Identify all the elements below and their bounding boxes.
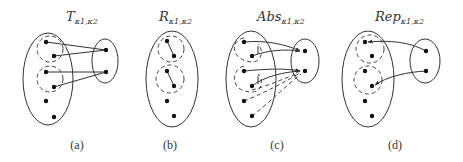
- source-set: [226, 31, 276, 127]
- panel-c-caption: (c): [270, 138, 283, 152]
- target-dot: [104, 70, 108, 74]
- panel-a-caption: (a): [70, 138, 83, 152]
- cluster-2: [156, 65, 184, 93]
- state-dot: [44, 99, 48, 103]
- abstraction-arrow: [244, 69, 300, 71]
- abstraction-arrow: [244, 41, 300, 51]
- state-dot: [250, 84, 254, 88]
- panel-a-title: Tκ1,κ2: [66, 9, 98, 26]
- panel-b: Rκ1,κ2 (b): [146, 9, 198, 152]
- target-dot: [303, 49, 307, 53]
- target-dot: [424, 49, 428, 53]
- panel-b-title: Rκ1,κ2: [158, 9, 192, 26]
- representative-arrow: [368, 41, 426, 51]
- state-dot: [172, 54, 176, 58]
- state-dot: [52, 85, 56, 89]
- edge: [167, 41, 174, 56]
- state-dot: [370, 84, 374, 88]
- representative-arrow: [375, 71, 426, 85]
- state-dot: [172, 114, 176, 118]
- state-dot: [370, 114, 374, 118]
- cluster-1: [356, 35, 384, 63]
- cluster-2: [37, 66, 63, 92]
- panel-d-caption: (d): [388, 138, 402, 152]
- dashed-arrow: [252, 74, 301, 116]
- state-dot: [363, 69, 367, 73]
- state-dot: [242, 99, 246, 103]
- state-dot: [52, 115, 56, 119]
- panel-c: Absκ1,κ2 (c): [226, 9, 319, 152]
- state-dot: [44, 40, 48, 44]
- edge: [167, 71, 174, 86]
- panel-b-caption: (b): [163, 138, 177, 152]
- state-dot: [370, 54, 374, 58]
- panel-a: Tκ1,κ2 (a): [23, 9, 118, 152]
- state-dot: [165, 69, 169, 73]
- panel-d: Repκ1,κ2 (d): [342, 9, 440, 152]
- state-dot: [52, 54, 56, 58]
- state-dot: [165, 99, 169, 103]
- state-dot: [242, 69, 246, 73]
- state-dot: [242, 40, 246, 44]
- target-set: [291, 39, 319, 83]
- edge: [54, 50, 106, 56]
- cluster-1: [37, 36, 63, 62]
- state-dot: [363, 99, 367, 103]
- target-dot: [424, 69, 428, 73]
- state-dot: [165, 39, 169, 43]
- state-dot: [363, 40, 367, 44]
- cluster-2: [354, 66, 382, 94]
- state-dot: [172, 84, 176, 88]
- target-dot: [303, 69, 307, 73]
- source-set: [146, 31, 198, 127]
- state-dot: [250, 114, 254, 118]
- state-dot: [250, 54, 254, 58]
- diagram-canvas: Tκ1,κ2 (a) Rκ1,κ2 (b) Absκ1,κ: [0, 0, 463, 162]
- target-dot: [104, 48, 108, 52]
- panel-c-title: Absκ1,κ2: [256, 9, 305, 26]
- panel-d-title: Repκ1,κ2: [374, 9, 424, 26]
- source-set: [23, 33, 73, 125]
- target-set: [92, 39, 118, 83]
- state-dot: [44, 70, 48, 74]
